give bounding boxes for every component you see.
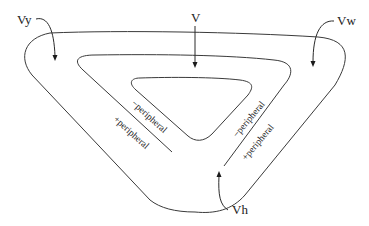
- label-v: V: [191, 10, 201, 25]
- label-vh: Vh: [232, 202, 248, 217]
- vy-arrow: [36, 19, 55, 56]
- vw-arrowhead: [311, 61, 316, 67]
- label-left-plus-peripheral: +peripheral: [112, 114, 152, 151]
- vy-arrowhead: [53, 55, 58, 61]
- vh-arrowhead: [217, 171, 222, 177]
- label-vy: Vy: [17, 12, 32, 27]
- outer-boundary: [25, 32, 346, 213]
- v-arrowhead: [193, 62, 198, 68]
- vw-arrow: [313, 21, 334, 62]
- vowel-space-diagram: Vy V Vw Vh −peripheral +peripheral −peri…: [0, 0, 369, 226]
- vh-arrow: [219, 176, 228, 210]
- label-vw: Vw: [337, 13, 356, 28]
